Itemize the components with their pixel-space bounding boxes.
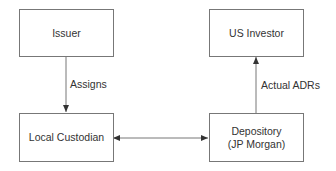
edge-label-actual-adrs: Actual ADRs [261,79,320,91]
issuer-node: Issuer [19,9,114,57]
depository-node: Depository (JP Morgan) [209,113,304,162]
local-custodian-label: Local Custodian [29,131,104,144]
us-investor-node: US Investor [209,9,304,57]
depository-sublabel: (JP Morgan) [228,138,286,151]
us-investor-label: US Investor [229,27,284,40]
edge-label-assigns: Assigns [70,78,107,90]
local-custodian-node: Local Custodian [19,113,114,162]
depository-label: Depository [231,125,281,138]
issuer-label: Issuer [52,27,81,40]
